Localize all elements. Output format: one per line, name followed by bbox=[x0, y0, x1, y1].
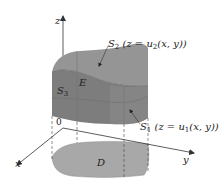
x-axis-label: x bbox=[15, 159, 21, 169]
y-axis-label: y bbox=[183, 155, 189, 165]
s1-label: S1 (z = u1(x, y)) bbox=[140, 122, 219, 134]
side-face bbox=[110, 85, 148, 124]
z-axis-label: z bbox=[55, 16, 60, 26]
s2-label: S2 (z = u2(x, y)) bbox=[108, 39, 187, 51]
origin-label: 0 bbox=[56, 118, 62, 127]
s3-label: S3 bbox=[57, 86, 68, 98]
region-e-label: E bbox=[79, 78, 86, 88]
domain-d-label: D bbox=[97, 158, 105, 168]
